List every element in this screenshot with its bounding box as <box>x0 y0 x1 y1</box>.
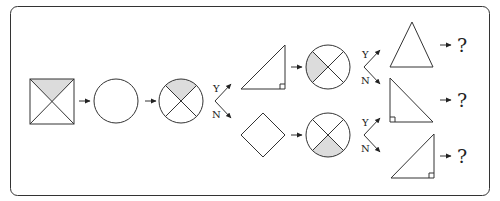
start-square <box>30 79 74 124</box>
diamond <box>241 113 285 157</box>
flow-diagram: Y N Y N Y N <box>0 0 500 201</box>
unknown-mark: ? <box>457 34 467 56</box>
decision-fork-2: Y N <box>361 49 380 86</box>
circle-x-top <box>159 79 203 123</box>
no-label: N <box>212 109 221 120</box>
circle-x-bottom <box>306 113 350 157</box>
unknown-mark: ? <box>457 145 467 167</box>
isosceles-triangle <box>390 22 433 67</box>
output-1: ? <box>440 34 467 56</box>
yes-label: Y <box>361 49 369 60</box>
circle-x-left <box>306 45 350 89</box>
no-label: N <box>361 75 370 86</box>
yes-label: Y <box>361 117 369 128</box>
right-triangle-br-2 <box>391 134 434 178</box>
unknown-mark: ? <box>457 89 467 111</box>
right-triangle-bl <box>390 78 433 122</box>
output-3: ? <box>440 145 467 167</box>
output-2: ? <box>440 89 467 111</box>
decision-fork-1: Y N <box>212 83 231 120</box>
no-label: N <box>361 143 370 154</box>
circle-empty <box>94 79 138 123</box>
yes-label: Y <box>212 83 220 94</box>
right-triangle-br <box>241 45 285 89</box>
decision-fork-3: Y N <box>361 117 380 154</box>
